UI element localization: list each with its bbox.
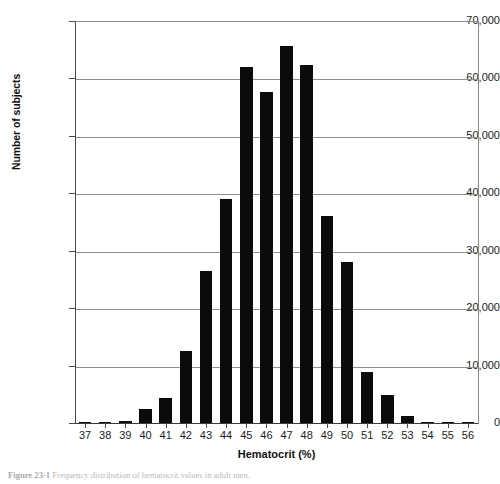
x-axis-title: Hematocrit (%) — [75, 448, 478, 460]
x-axis-tick-mark — [448, 423, 449, 428]
x-axis-tick-mark — [246, 423, 247, 428]
x-axis-tick-mark — [367, 423, 368, 428]
x-axis-tick-mark — [186, 423, 187, 428]
x-axis-tick-mark — [387, 423, 388, 428]
bar — [139, 409, 151, 423]
histogram-figure: Number of subjects 010,00020,00030,00040… — [0, 0, 500, 484]
bar — [280, 46, 292, 423]
bar — [361, 372, 373, 423]
bar — [300, 65, 312, 423]
bar — [180, 351, 192, 423]
figure-caption: Figure 23-1 Frequency distribution of he… — [8, 470, 478, 481]
bar — [240, 67, 252, 423]
x-axis-tick-mark — [327, 423, 328, 428]
x-axis-tick-mark — [266, 423, 267, 428]
x-axis-tick-mark — [428, 423, 429, 428]
x-axis-tick-mark — [347, 423, 348, 428]
x-axis-tick-mark — [125, 423, 126, 428]
x-axis-tick-mark — [206, 423, 207, 428]
bar — [401, 416, 413, 423]
y-axis-title: Number of subjects — [10, 40, 28, 170]
bar-series — [75, 21, 478, 423]
x-axis-tick-mark — [85, 423, 86, 428]
x-axis-tick-mark — [226, 423, 227, 428]
bar — [381, 395, 393, 423]
x-axis-tick-mark — [105, 423, 106, 428]
x-axis-tick-mark — [307, 423, 308, 428]
figure-caption-text: Frequency distribution of hematocrit val… — [52, 470, 250, 480]
bar — [200, 271, 212, 423]
bar — [159, 398, 171, 423]
x-axis-tick-mark — [146, 423, 147, 428]
bar — [260, 92, 272, 423]
x-axis-tick-mark — [166, 423, 167, 428]
x-axis-tick-label: 56 — [455, 429, 481, 442]
bar — [321, 216, 333, 423]
x-axis-line — [75, 423, 478, 424]
bar — [341, 262, 353, 423]
x-axis-tick-mark — [287, 423, 288, 428]
x-axis-tick-mark — [407, 423, 408, 428]
x-axis-tick-mark — [468, 423, 469, 428]
bar — [220, 199, 232, 423]
figure-caption-label: Figure 23-1 — [8, 470, 50, 480]
